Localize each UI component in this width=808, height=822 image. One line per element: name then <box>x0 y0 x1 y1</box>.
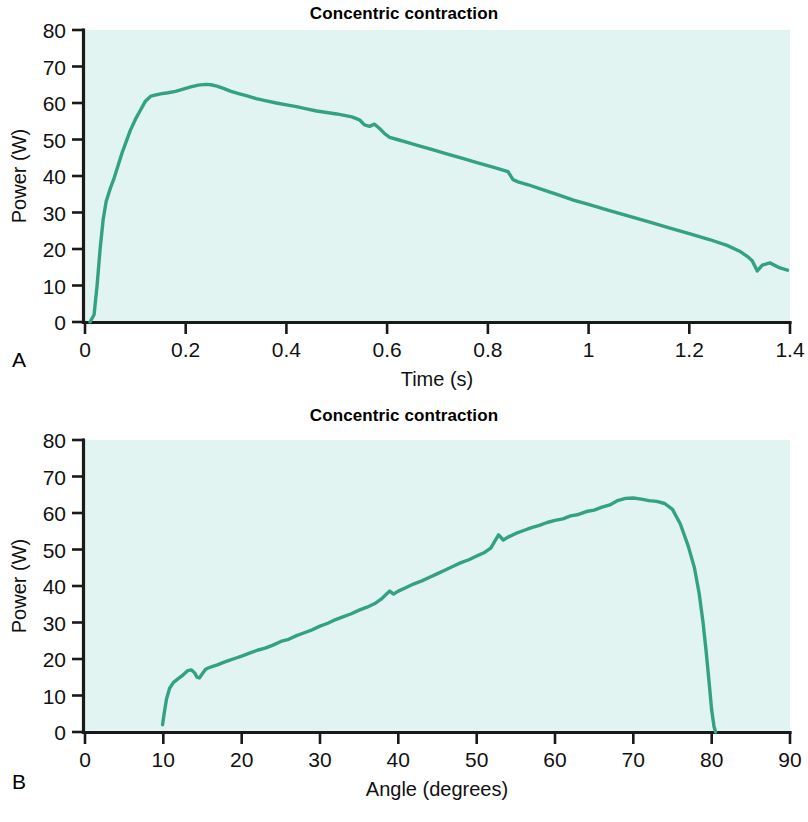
panel-b-xtick-0: 0 <box>79 748 91 771</box>
panel-b-xtick-50: 50 <box>465 748 488 771</box>
panel-b-ytick-60: 60 <box>43 502 66 525</box>
panel-b-x-axis: 0 10 20 30 40 50 60 70 80 90 Angle (degr… <box>79 732 802 800</box>
panel-b-ytick-70: 70 <box>43 466 66 489</box>
panel-a-ytick-0: 0 <box>54 311 66 334</box>
panel-a-plot: 80 70 60 50 40 30 20 10 0 Power (W) <box>0 0 808 400</box>
panel-b-plot: 80 70 60 50 40 30 20 10 0 Power (W) <box>0 400 808 822</box>
panel-b-xtick-70: 70 <box>622 748 645 771</box>
panel-b-ytick-80: 80 <box>43 429 66 452</box>
panel-a-letter: A <box>12 348 26 372</box>
panel-a-ytick-30: 30 <box>43 202 66 225</box>
panel-b-letter: B <box>12 770 26 794</box>
panel-b-ytick-0: 0 <box>54 721 66 744</box>
panel-b-xtick-90: 90 <box>778 748 801 771</box>
panel-a-xtick-1p4: 1.4 <box>775 338 805 361</box>
panel-b-ytick-40: 40 <box>43 575 66 598</box>
panel-b-ytick-10: 10 <box>43 685 66 708</box>
panel-b-ytick-30: 30 <box>43 612 66 635</box>
panel-a-ytick-50: 50 <box>43 129 66 152</box>
panel-a-ytick-10: 10 <box>43 275 66 298</box>
panel-b-y-axis: 80 70 60 50 40 30 20 10 0 Power (W) <box>8 429 84 744</box>
panel-a-ytick-70: 70 <box>43 56 66 79</box>
panel-a-xtick-0p6: 0.6 <box>372 338 401 361</box>
panel-b-xtick-10: 10 <box>152 748 175 771</box>
panel-a-y-axis: 80 70 60 50 40 30 20 10 0 Power (W) <box>8 19 84 334</box>
panel-b-plot-background <box>85 440 790 732</box>
panel-a-ytick-20: 20 <box>43 238 66 261</box>
panel-b-x-axis-label: Angle (degrees) <box>366 778 508 800</box>
panel-a-ytick-80: 80 <box>43 19 66 42</box>
panel-b-xtick-20: 20 <box>230 748 253 771</box>
panel-a-xtick-0p4: 0.4 <box>272 338 302 361</box>
panel-a-ytick-40: 40 <box>43 165 66 188</box>
panel-b-ytick-50: 50 <box>43 539 66 562</box>
panel-b-ytick-20: 20 <box>43 648 66 671</box>
panel-a-y-axis-label: Power (W) <box>8 129 30 223</box>
panel-b-y-axis-label: Power (W) <box>8 539 30 633</box>
panel-a-x-axis: 0 0.2 0.4 0.6 0.8 1 1.2 1.4 Time (s) <box>79 322 805 390</box>
panel-b: Concentric contraction 80 70 <box>0 400 808 822</box>
figure-concentric-contraction: Concentric contraction 80 70 <box>0 0 808 822</box>
panel-a: Concentric contraction 80 70 <box>0 0 808 400</box>
panel-a-ytick-60: 60 <box>43 92 66 115</box>
panel-a-xtick-0p8: 0.8 <box>473 338 502 361</box>
panel-b-xtick-80: 80 <box>700 748 723 771</box>
panel-b-xtick-60: 60 <box>543 748 566 771</box>
panel-a-xtick-1p2: 1.2 <box>675 338 704 361</box>
panel-a-xtick-0p2: 0.2 <box>171 338 200 361</box>
panel-b-xtick-30: 30 <box>308 748 331 771</box>
panel-a-xtick-0: 0 <box>79 338 91 361</box>
panel-a-x-axis-label: Time (s) <box>401 368 474 390</box>
panel-b-xtick-40: 40 <box>387 748 410 771</box>
panel-a-xtick-1: 1 <box>583 338 595 361</box>
panel-a-plot-background <box>85 30 790 322</box>
